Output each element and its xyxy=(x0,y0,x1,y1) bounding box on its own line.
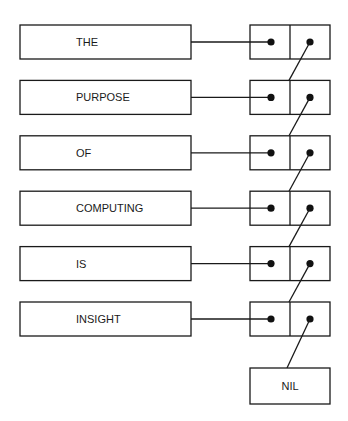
car-dot xyxy=(267,94,274,101)
list-row: THE xyxy=(20,25,330,80)
car-dot xyxy=(267,260,274,267)
linked-list-diagram: THEPURPOSEOFCOMPUTINGISINSIGHT NIL xyxy=(0,0,348,421)
list-row: COMPUTING xyxy=(20,191,330,246)
cdr-dot xyxy=(306,149,313,156)
car-dot xyxy=(267,38,274,45)
nil-node: NIL xyxy=(250,368,330,404)
atom-label: INSIGHT xyxy=(76,313,121,325)
car-dot xyxy=(267,205,274,212)
list-row: PURPOSE xyxy=(20,80,330,135)
car-dot xyxy=(267,149,274,156)
nil-label: NIL xyxy=(281,380,298,392)
cdr-dot xyxy=(306,205,313,212)
car-dot xyxy=(267,315,274,322)
list-row: IS xyxy=(20,247,330,302)
list-row: OF xyxy=(20,136,330,191)
atom-box xyxy=(20,136,191,170)
atom-box xyxy=(20,247,191,281)
list-row: INSIGHT xyxy=(20,302,330,368)
atom-label: THE xyxy=(76,36,98,48)
atom-label: COMPUTING xyxy=(76,202,143,214)
atom-box xyxy=(20,25,191,59)
atom-label: PURPOSE xyxy=(76,91,130,103)
atom-label: OF xyxy=(76,147,92,159)
atom-label: IS xyxy=(76,258,86,270)
